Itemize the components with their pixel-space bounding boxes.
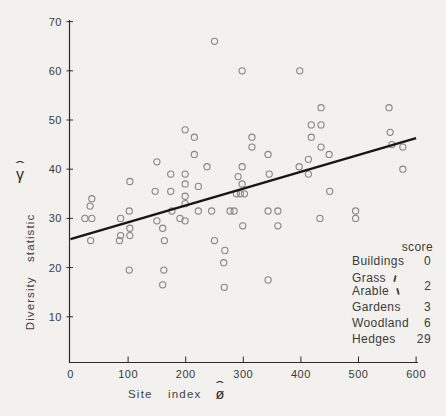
- y-tick-label: 30: [49, 212, 62, 224]
- data-point: [221, 284, 227, 290]
- data-point: [152, 188, 158, 194]
- data-point: [305, 171, 311, 177]
- data-point: [275, 223, 281, 229]
- y-axis-label-text: Diversity statistic: [24, 214, 36, 331]
- y-tick-label: 20: [49, 262, 62, 274]
- data-point: [204, 164, 210, 170]
- data-point: [82, 215, 88, 221]
- data-point: [387, 129, 393, 135]
- data-point: [296, 164, 302, 170]
- data-point: [386, 105, 392, 111]
- data-point: [308, 134, 314, 140]
- data-point: [265, 208, 271, 214]
- data-point: [235, 173, 241, 179]
- x-tick-label: 0: [67, 368, 74, 380]
- legend-row-score: 6: [424, 317, 431, 330]
- data-point: [182, 127, 188, 133]
- data-point: [118, 215, 124, 221]
- data-point: [154, 159, 160, 165]
- data-point: [195, 183, 201, 189]
- data-point: [182, 171, 188, 177]
- gamma-hat-symbol: ˆγ: [16, 166, 24, 184]
- data-point: [265, 151, 271, 157]
- data-point: [275, 208, 281, 214]
- data-point: [265, 277, 271, 283]
- y-tick-label: 10: [49, 311, 62, 323]
- data-point: [160, 282, 166, 288]
- data-point: [191, 134, 197, 140]
- x-tick-label: 600: [406, 368, 426, 380]
- circumflex-hat-icon: ˆ: [216, 380, 224, 394]
- x-tick-label: 300: [233, 368, 253, 380]
- data-point: [317, 215, 323, 221]
- y-tick-label: 70: [49, 16, 62, 28]
- y-tick-label: 40: [49, 163, 62, 175]
- data-point: [297, 68, 303, 74]
- y-tick-label: 50: [49, 114, 62, 126]
- data-point: [87, 203, 93, 209]
- data-point: [353, 215, 359, 221]
- data-point: [127, 225, 133, 231]
- legend-group-score: 2: [424, 280, 431, 293]
- legend-row: Gardens3: [352, 301, 433, 314]
- data-point: [191, 151, 197, 157]
- data-point: [195, 208, 201, 214]
- data-point: [305, 156, 311, 162]
- x-axis-label-text: Site index: [128, 388, 202, 400]
- data-point: [89, 215, 95, 221]
- data-point: [168, 188, 174, 194]
- data-point: [318, 105, 324, 111]
- regression-line: [71, 138, 417, 239]
- legend-row-label: Buildings: [352, 255, 404, 268]
- data-point: [241, 191, 247, 197]
- data-point: [231, 208, 237, 214]
- legend-row-label: Hedges: [352, 333, 396, 346]
- data-point: [239, 68, 245, 74]
- legend-row-score: 0: [424, 255, 431, 268]
- y-tick-label: 60: [49, 65, 62, 77]
- data-point: [221, 260, 227, 266]
- data-point: [88, 237, 94, 243]
- data-point: [160, 225, 166, 231]
- x-axis-label: Site index: [128, 388, 202, 400]
- data-point: [318, 122, 324, 128]
- data-point: [249, 134, 255, 140]
- data-point: [240, 223, 246, 229]
- data-point: [126, 267, 132, 273]
- legend-row-label: Gardens: [352, 301, 401, 314]
- data-point: [168, 171, 174, 177]
- legend-row-label: Woodland: [352, 317, 409, 330]
- data-point: [89, 196, 95, 202]
- data-point: [161, 237, 167, 243]
- data-point: [222, 247, 228, 253]
- data-point: [327, 188, 333, 194]
- legend-score-header: score: [402, 240, 433, 254]
- x-tick-label: 500: [349, 368, 369, 380]
- data-point: [266, 171, 272, 177]
- data-point: [326, 151, 332, 157]
- x-tick-label: 100: [118, 368, 138, 380]
- data-point: [211, 38, 217, 44]
- circumflex-hat-icon: ˆ: [16, 159, 25, 174]
- figure-canvas: 102030405060700100200300400500600 Divers…: [0, 0, 446, 416]
- data-point: [239, 164, 245, 170]
- x-tick-label: 400: [291, 368, 311, 380]
- phi-hat-symbol: ˆø: [215, 386, 224, 402]
- scatter-plot-svg: 102030405060700100200300400500600: [0, 0, 446, 416]
- data-point: [400, 144, 406, 150]
- data-point: [154, 218, 160, 224]
- legend-row-score: 29: [417, 333, 431, 346]
- legend-row-label: Arable: [352, 285, 389, 298]
- data-point: [127, 178, 133, 184]
- legend-row: Hedges29: [352, 333, 433, 346]
- data-point: [318, 144, 324, 150]
- legend-row: Buildings0: [352, 255, 433, 268]
- x-tick-label: 200: [176, 368, 196, 380]
- y-axis-label: Diversity statistic: [24, 184, 36, 360]
- data-point: [161, 267, 167, 273]
- data-point: [353, 208, 359, 214]
- data-point: [400, 166, 406, 172]
- data-point: [182, 181, 188, 187]
- data-point: [177, 215, 183, 221]
- data-point: [182, 193, 188, 199]
